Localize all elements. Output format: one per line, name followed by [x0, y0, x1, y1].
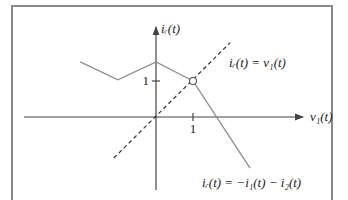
load-line-label: iᵣ(t) = v₁(t): [229, 55, 286, 70]
operating-point-marker: [190, 78, 197, 85]
y-tick-label: 1: [143, 73, 150, 88]
y-axis-label: iᵣ(t): [161, 21, 180, 36]
characteristic-label: iᵣ(t) = −i₁(t) − i₂(t): [202, 175, 301, 190]
characteristic-curve: [80, 62, 250, 168]
x-tick-label: 1: [190, 121, 197, 136]
load-line: [114, 43, 230, 158]
diagram-canvas: 1 1 iᵣ(t) v₁(t) iᵣ(t) = v₁(t) iᵣ(t) = −i…: [0, 0, 348, 200]
x-axis-label: v₁(t): [310, 109, 333, 124]
